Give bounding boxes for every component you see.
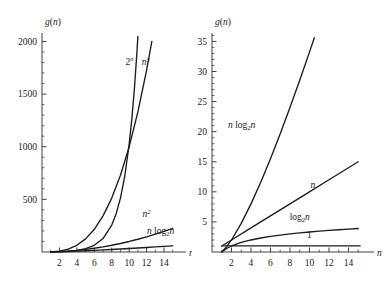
left-x-tick-label: 12 xyxy=(142,258,152,268)
left-y-tick-label: 1500 xyxy=(18,89,37,99)
right-y-tick-label: 35 xyxy=(198,37,208,47)
right-x-tick-label: 10 xyxy=(305,258,315,268)
right-curve-label-0: n log2n xyxy=(228,120,256,131)
right-y-tick-label: 15 xyxy=(198,157,208,167)
left-axis-titles: g(n)n xyxy=(45,17,192,258)
left-curve-0 xyxy=(51,36,138,251)
left-y-tick-label: 2000 xyxy=(18,37,37,47)
left-ticks xyxy=(42,41,173,252)
left-curves xyxy=(51,36,173,252)
left-curve-label-3: n log2n xyxy=(147,226,175,237)
right-y-tick-label: 5 xyxy=(202,217,207,227)
left-curve-label-0: 2n xyxy=(126,55,134,66)
right-x-tick-label: 6 xyxy=(268,258,273,268)
right-x-tick-label: 4 xyxy=(249,258,254,268)
right-y-tick-label: 25 xyxy=(198,97,208,107)
left-x-tick-label: 10 xyxy=(124,258,134,268)
left-curve-label-2: n2 xyxy=(143,208,152,219)
left-x-tick-label: 6 xyxy=(92,258,97,268)
right-axis-titles: g(n)n xyxy=(215,17,382,258)
chart-panel-right: 24681012145101520253035 g(n)n n log2nnlo… xyxy=(192,0,385,286)
left-y-tick-label: 500 xyxy=(23,195,38,205)
right-y-tick-label: 30 xyxy=(198,67,208,77)
left-y-axis-title: g(n) xyxy=(45,17,61,28)
left-chart-svg: 2468101214500100015002000 g(n)n 2nn3n2n … xyxy=(0,0,192,286)
right-y-axis-title: g(n) xyxy=(215,17,231,28)
left-curve-label-1: n3 xyxy=(142,56,151,67)
right-curve-label-3: 1 xyxy=(307,230,312,240)
left-x-tick-label: 8 xyxy=(109,258,114,268)
left-x-tick-label: 2 xyxy=(57,258,62,268)
right-x-axis-title: n xyxy=(377,248,382,258)
right-curve-label-2: log2n xyxy=(290,212,310,223)
right-x-tick-label: 14 xyxy=(344,258,354,268)
figure-two-growth-rate-charts: 2468101214500100015002000 g(n)n 2nn3n2n … xyxy=(0,0,385,286)
right-y-tick-label: 10 xyxy=(198,187,208,197)
left-x-tick-label: 4 xyxy=(74,258,79,268)
right-x-tick-label: 2 xyxy=(229,258,234,268)
left-y-tick-label: 1000 xyxy=(18,142,37,152)
right-ticks xyxy=(212,35,358,252)
right-curve-label-1: n xyxy=(311,180,316,190)
left-x-tick-label: 14 xyxy=(159,258,169,268)
right-x-tick-label: 12 xyxy=(324,258,334,268)
right-tick-labels: 24681012145101520253035 xyxy=(198,37,354,268)
right-y-tick-label: 20 xyxy=(198,127,208,137)
left-curve-1 xyxy=(51,41,152,251)
right-chart-svg: 24681012145101520253035 g(n)n n log2nnlo… xyxy=(192,0,385,286)
chart-panel-left: 2468101214500100015002000 g(n)n 2nn3n2n … xyxy=(0,0,192,286)
right-x-tick-label: 8 xyxy=(288,258,293,268)
left-curve-labels: 2nn3n2n log2n xyxy=(126,55,175,237)
